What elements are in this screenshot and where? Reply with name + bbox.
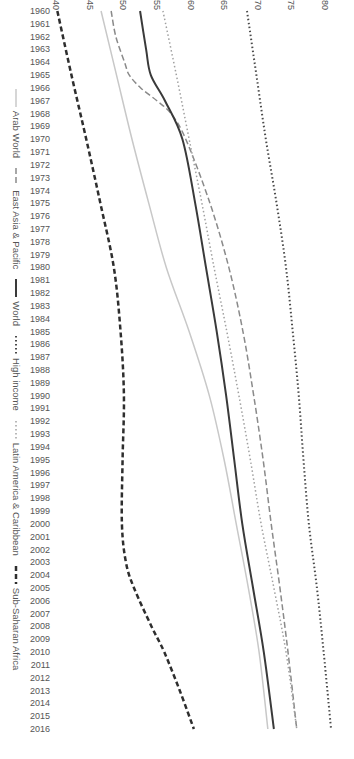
x-tick-label: 1978 [30,237,50,247]
x-tick-label: 2004 [30,570,50,580]
legend-item-latin-america-caribbean: Latin America & Caribbean [12,421,23,556]
y-tick-label: 75 [286,0,296,10]
x-tick-label: 1976 [30,211,50,221]
legend-item-east-asia-pacific: East Asia & Pacific [12,168,23,269]
y-tick-label: 50 [118,0,128,10]
x-tick-label: 1982 [30,288,50,298]
x-tick-label: 1984 [30,314,50,324]
x-tick-label: 2015 [30,711,50,721]
x-tick-label: 1972 [30,160,50,170]
x-tick-label: 2008 [30,621,50,631]
x-tick-label: 2009 [30,634,50,644]
x-tick-label: 1975 [30,198,50,208]
x-tick-label: 2013 [30,686,50,696]
legend-item-world: World [12,279,23,326]
x-tick-label: 2010 [30,647,50,657]
x-tick-label: 1977 [30,224,50,234]
x-tick-label: 1967 [30,96,50,106]
x-tick-label: 1981 [30,275,50,285]
y-tick-label: 45 [85,0,95,10]
x-tick-label: 1991 [30,403,50,413]
x-tick-label: 1995 [30,455,50,465]
legend-item-high-income: High income [12,336,23,411]
x-tick-label: 1968 [30,109,50,119]
x-tick-label: 2005 [30,583,50,593]
x-tick-label: 2012 [30,673,50,683]
x-tick-label: 2014 [30,698,50,708]
y-tick-label: 60 [186,0,196,10]
series-line-arab-world [101,11,268,729]
x-tick-label: 1985 [30,327,50,337]
x-tick-label: 1961 [30,19,50,29]
x-tick-label: 1962 [30,32,50,42]
y-axis: 404550556065707580 [51,0,330,10]
x-tick-label: 1998 [30,493,50,503]
x-tick-label: 2003 [30,557,50,567]
x-tick-label: 1992 [30,416,50,426]
series-line-east-asia-pacific [111,11,297,729]
line-swatch-icon [12,566,23,584]
x-tick-label: 2007 [30,609,50,619]
x-tick-label: 1963 [30,44,50,54]
x-tick-label: 1971 [30,147,50,157]
x-tick-label: 1999 [30,506,50,516]
x-tick-label: 2000 [30,519,50,529]
x-tick-label: 1969 [30,121,50,131]
x-tick-label: 1970 [30,134,50,144]
x-tick-label: 2016 [30,724,50,734]
chart-legend: Arab World East Asia & Pacific World Hig… [6,0,28,759]
x-tick-label: 1983 [30,301,50,311]
x-tick-label: 1980 [30,262,50,272]
x-tick-label: 2011 [31,660,50,670]
line-swatch-icon [12,279,23,297]
series-lines [57,11,331,729]
x-axis: 1960196119621963196419651966196719681969… [30,6,50,734]
rotated-chart-container: 404550556065707580 196019611962196319641… [0,0,354,759]
legend-item-arab-world: Arab World [12,89,23,158]
x-tick-label: 2001 [30,532,50,542]
x-tick-label: 1960 [30,6,50,16]
x-tick-label: 1965 [30,70,50,80]
x-tick-label: 1996 [30,468,50,478]
x-tick-label: 2002 [30,545,50,555]
x-tick-label: 1964 [30,57,50,67]
line-swatch-icon [12,89,23,107]
x-tick-label: 1989 [30,378,50,388]
legend-item-sub-saharan-africa: Sub-Saharan Africa [12,566,23,670]
x-tick-label: 1986 [30,339,50,349]
line-swatch-icon [12,336,23,354]
x-tick-label: 1990 [30,391,50,401]
x-tick-label: 1973 [30,173,50,183]
line-chart: 404550556065707580 196019611962196319641… [0,0,354,759]
y-tick-label: 80 [320,0,330,10]
x-tick-label: 1987 [30,352,50,362]
x-tick-label: 1966 [30,83,50,93]
x-tick-label: 1994 [30,442,50,452]
x-tick-label: 1993 [30,429,50,439]
y-tick-label: 40 [51,0,61,10]
line-swatch-icon [12,421,23,439]
x-tick-label: 1997 [30,480,50,490]
x-tick-label: 1974 [30,186,50,196]
x-tick-label: 2006 [30,596,50,606]
x-tick-label: 1988 [30,365,50,375]
y-tick-label: 55 [152,0,162,10]
line-swatch-icon [12,168,23,186]
series-line-latin-america-caribbean [163,11,297,729]
x-tick-label: 1979 [30,250,50,260]
y-tick-label: 70 [253,0,263,10]
y-tick-label: 65 [219,0,229,10]
